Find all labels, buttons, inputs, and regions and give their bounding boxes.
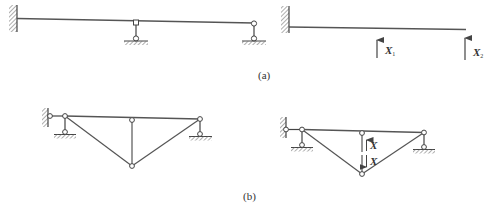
diagram-a-original	[9, 5, 266, 45]
diagram-a-basic-system: X1 X2	[281, 6, 483, 60]
diagram-b-original	[42, 108, 212, 168]
diagram-b-basic-system: X X	[280, 117, 435, 176]
force-x-lower-label: X	[369, 155, 378, 167]
caption-b: (b)	[243, 190, 256, 203]
hinge-node	[360, 172, 365, 177]
link-support-right	[242, 21, 266, 45]
fixed-wall-hatch	[42, 108, 48, 127]
hinge-node	[130, 164, 135, 169]
caption-a: (a)	[258, 69, 271, 82]
force-x1-label: X1	[384, 44, 395, 57]
hinge-node	[284, 127, 289, 132]
fixed-wall-hatch	[9, 5, 17, 32]
force-x2-label: X2	[472, 46, 483, 59]
diagonal-left	[302, 130, 362, 175]
fixed-wall-hatch	[281, 6, 289, 33]
hinge-node	[198, 117, 203, 122]
hinge-node	[130, 118, 135, 123]
diagonal-left	[65, 116, 132, 166]
diagonal-right	[132, 119, 200, 166]
link-support-middle	[124, 20, 148, 45]
hinge-node	[48, 114, 53, 119]
beam	[289, 27, 466, 30]
hinge-node	[63, 114, 68, 119]
hinge-node	[300, 127, 305, 132]
force-x-upper-label: X	[369, 139, 378, 151]
structural-diagram: X1 X2 (a)	[0, 0, 486, 211]
hinge-node	[360, 131, 365, 136]
hinge-node	[422, 130, 427, 135]
